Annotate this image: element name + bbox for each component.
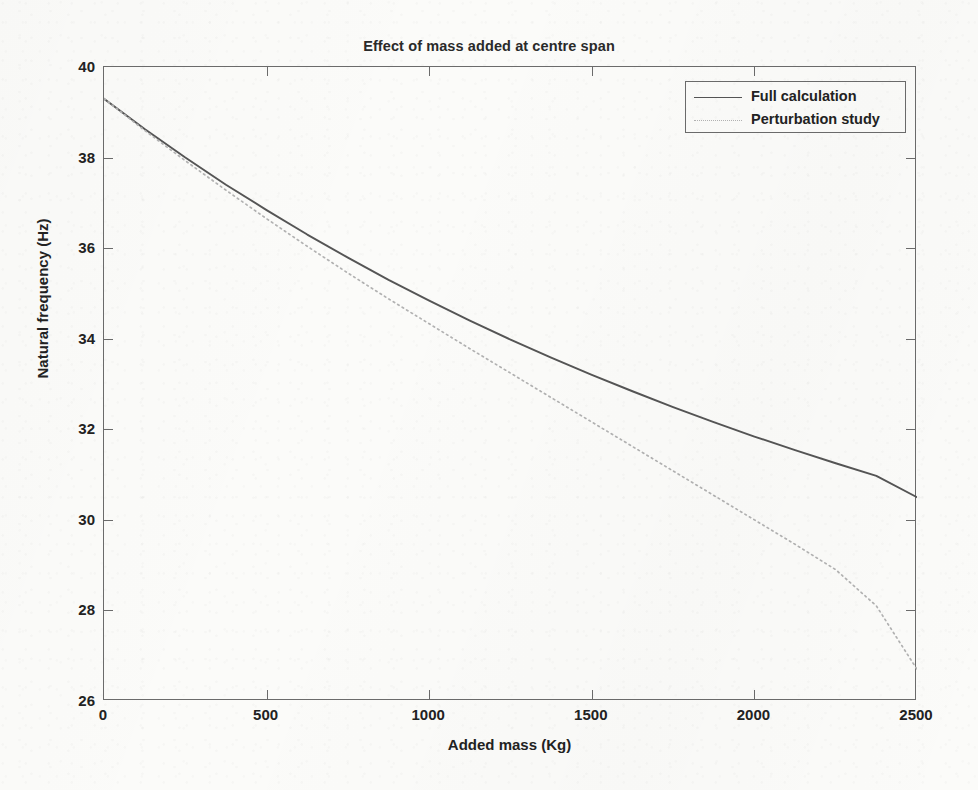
y-tick-mark [104,339,113,340]
page-title: Effect of mass added at centre span [0,38,978,54]
series-line-full-calculation [104,99,917,498]
x-tick-mark [754,690,755,699]
y-tick-mark [906,429,915,430]
plot-svg [104,67,917,701]
legend-item-perturbation-study: Perturbation study [686,108,905,131]
legend: Full calculation Perturbation study [685,81,906,133]
y-tick-mark [906,248,915,249]
y-tick-mark [104,158,113,159]
y-tick-mark [906,339,915,340]
x-tick-label: 2000 [708,706,798,723]
y-tick-label: 28 [17,601,103,618]
x-tick-mark [267,67,268,76]
solid-line-sample-icon [694,91,742,103]
y-tick-mark [104,520,113,521]
y-tick-label: 32 [17,420,103,437]
x-axis-title: Added mass (Kg) [103,736,916,753]
y-tick-label: 30 [17,510,103,527]
figure: Effect of mass added at centre span 2628… [0,0,978,790]
y-tick-mark [104,610,113,611]
x-tick-label: 0 [58,706,148,723]
x-tick-mark [592,690,593,699]
y-tick-label: 38 [17,148,103,165]
y-tick-label: 36 [17,239,103,256]
legend-label: Full calculation [751,89,857,104]
x-tick-mark [429,67,430,76]
y-tick-mark [104,429,113,430]
legend-item-full-calculation: Full calculation [686,85,905,108]
y-axis-title: Natural frequency (Hz) [34,169,51,429]
x-tick-mark [754,67,755,76]
x-tick-label: 2500 [871,706,961,723]
dotted-line-sample-icon [694,114,742,126]
y-tick-mark [906,610,915,611]
plot-area [103,66,916,700]
y-tick-mark [906,520,915,521]
x-tick-mark [429,690,430,699]
x-tick-label: 1500 [546,706,636,723]
y-tick-label: 40 [17,58,103,75]
y-tick-mark [104,248,113,249]
y-tick-mark [906,158,915,159]
x-axis-tick-labels: 05001000150020002500 [103,706,916,732]
x-tick-mark [592,67,593,76]
x-tick-label: 500 [221,706,311,723]
y-axis-tick-labels: 2628303234363840 [0,66,103,700]
legend-label: Perturbation study [751,112,880,127]
y-tick-label: 34 [17,329,103,346]
x-tick-mark [267,690,268,699]
x-tick-label: 1000 [383,706,473,723]
